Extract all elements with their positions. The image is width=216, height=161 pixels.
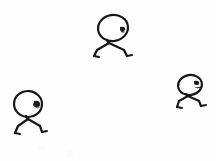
sketch-drawing	[0, 0, 216, 161]
figure-left-foot	[94, 56, 99, 57]
face-mark-icon	[194, 81, 199, 85]
figure-left-foot	[177, 107, 182, 108]
figure-right-foot	[127, 55, 132, 56]
figure-left-foot	[15, 133, 20, 134]
faint-smudge-2	[66, 150, 73, 158]
sketch-canvas: Three stick figures sketch	[0, 0, 216, 161]
face-mark-icon	[33, 101, 40, 108]
figure-right-foot	[201, 105, 206, 106]
figure-right-foot	[42, 131, 47, 132]
faint-smudge-1	[38, 146, 46, 151]
